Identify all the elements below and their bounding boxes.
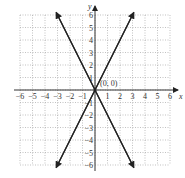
x-tick-label: 4 xyxy=(143,92,147,101)
x-tick-label: 6 xyxy=(168,92,172,101)
x-tick-label: −2 xyxy=(66,92,75,101)
x-tick-label: 1 xyxy=(106,92,110,101)
y-tick-label: −2 xyxy=(84,111,93,120)
x-tick-label: 5 xyxy=(156,92,160,101)
coordinate-plane: −6−5−4−3−2−1123456−6−5−4−3−2−1123456xy(0… xyxy=(0,0,185,178)
origin-label: (0, 0) xyxy=(100,79,118,88)
y-tick-label: 5 xyxy=(89,24,93,33)
x-tick-label: 3 xyxy=(131,92,135,101)
y-tick-label: −5 xyxy=(84,149,93,158)
y-tick-label: −4 xyxy=(84,136,93,145)
y-tick-label: −3 xyxy=(84,124,93,133)
y-axis-label: y xyxy=(87,2,92,11)
y-tick-label: 4 xyxy=(89,36,93,45)
x-tick-label: −3 xyxy=(53,92,62,101)
x-tick-label: −4 xyxy=(41,92,50,101)
origin-point xyxy=(94,89,97,92)
y-tick-label: 3 xyxy=(89,49,93,58)
x-tick-label: 2 xyxy=(118,92,122,101)
graph: −6−5−4−3−2−1123456−6−5−4−3−2−1123456xy(0… xyxy=(0,0,185,178)
y-tick-label: −6 xyxy=(84,161,93,170)
y-tick-label: 6 xyxy=(89,11,93,20)
x-axis-label: x xyxy=(178,92,183,101)
x-tick-label: −6 xyxy=(16,92,25,101)
x-tick-label: −5 xyxy=(28,92,37,101)
y-tick-label: 2 xyxy=(89,61,93,70)
